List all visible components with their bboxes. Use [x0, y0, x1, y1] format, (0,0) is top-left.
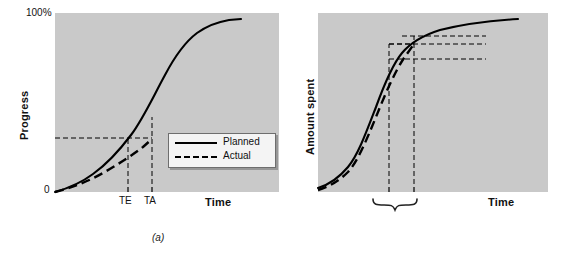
legend-row-actual-a: Actual — [175, 150, 271, 164]
x-axis-title-a: Time — [205, 196, 231, 208]
plot-area-b — [318, 13, 548, 192]
earned-value-figure: 100% 0 Progress Time TE TA Planned Actua… — [0, 0, 561, 258]
legend-label-planned: Planned — [223, 136, 260, 147]
te-marker-label-a: TE — [119, 195, 132, 206]
panel-b: SC AC EV Amount spent Time TE TA Time va… — [290, 0, 561, 258]
ta-marker-label-a: TA — [144, 195, 156, 206]
y-axis-title-b: Amount spent — [304, 79, 316, 155]
legend-label-actual: Actual — [223, 150, 251, 161]
y-tick-label-100: 100% — [26, 7, 52, 18]
x-axis-title-b: Time — [488, 196, 514, 208]
time-variance-brace-icon — [372, 198, 442, 212]
y-tick-label-0: 0 — [44, 184, 50, 195]
legend-row-planned-a: Planned — [175, 136, 271, 150]
plot-b-graphics — [318, 13, 548, 192]
legend-line-solid-icon — [175, 142, 217, 144]
legend-line-dashed-icon — [175, 156, 217, 158]
panel-a: 100% 0 Progress Time TE TA Planned Actua… — [0, 0, 290, 258]
actual-curve-b — [318, 44, 414, 190]
legend-a: Planned Actual — [168, 133, 276, 168]
figure-caption-a: (a) — [152, 232, 164, 243]
y-axis-title-a: Progress — [18, 91, 30, 140]
